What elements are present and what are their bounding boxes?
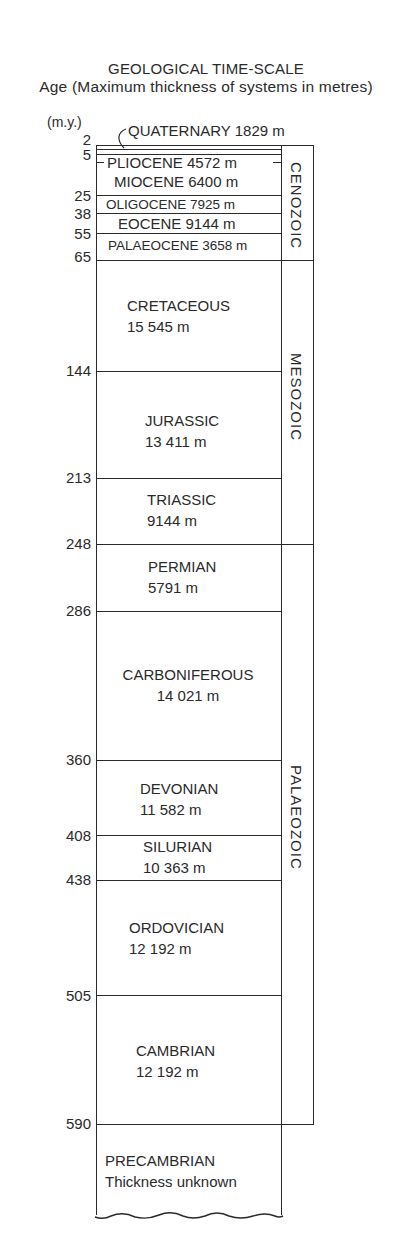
period-carboniferous: CARBONIFEROUS 14 021 m xyxy=(108,664,268,706)
era-column-right-border xyxy=(313,145,314,1125)
period-cretaceous: CRETACEOUS 15 545 m xyxy=(127,295,230,337)
boundary-144 xyxy=(96,371,281,372)
age-label: 248 xyxy=(51,536,91,552)
diagram-title: GEOLOGICAL TIME-SCALE xyxy=(0,60,412,77)
age-label: 38 xyxy=(51,206,91,222)
period-name: CAMBRIAN xyxy=(136,1040,215,1061)
age-label: 25 xyxy=(51,188,91,204)
age-label: 505 xyxy=(51,988,91,1004)
era-column-bottom xyxy=(281,1124,313,1125)
age-label: 286 xyxy=(51,603,91,619)
age-label: 65 xyxy=(51,249,91,265)
period-oligocene: OLIGOCENE 7925 m xyxy=(106,194,235,215)
age-unit-label: (m.y.) xyxy=(47,114,82,130)
age-label: 590 xyxy=(51,1116,91,1132)
era-palaeozoic: PALAEOZOIC xyxy=(288,765,305,870)
period-palaeocene: PALAEOCENE 3658 m xyxy=(108,235,247,256)
column-left-border xyxy=(96,145,97,1215)
age-label: 213 xyxy=(51,470,91,486)
period-cambrian: CAMBRIAN 12 192 m xyxy=(136,1040,215,1082)
period-precambrian: PRECAMBRIAN Thickness unknown xyxy=(105,1150,237,1192)
period-thickness: 13 411 m xyxy=(145,431,219,452)
period-devonian: DEVONIAN 11 582 m xyxy=(140,778,218,820)
age-label: 5 xyxy=(51,147,91,163)
period-name: ORDOVICIAN xyxy=(129,917,224,938)
boundary-213 xyxy=(96,478,281,479)
boundary-quaternary xyxy=(96,149,281,150)
period-name: PRECAMBRIAN xyxy=(105,1150,237,1171)
period-thickness: 15 545 m xyxy=(127,316,230,337)
period-pliocene: PLIOCENE 4572 m xyxy=(107,152,237,173)
age-label: 438 xyxy=(51,872,91,888)
period-permian: PERMIAN 5791 m xyxy=(148,556,216,598)
period-ordovician: ORDOVICIAN 12 192 m xyxy=(129,917,224,959)
age-label: 408 xyxy=(51,828,91,844)
period-quaternary-label: QUATERNARY 1829 m xyxy=(128,122,285,139)
boundary-65 xyxy=(96,260,313,261)
period-thickness: 10 363 m xyxy=(143,857,212,878)
period-name: PERMIAN xyxy=(148,556,216,577)
column-right-border xyxy=(281,145,282,1215)
boundary-2 xyxy=(96,145,313,146)
period-name: CRETACEOUS xyxy=(127,295,230,316)
period-name: SILURIAN xyxy=(143,836,212,857)
boundary-438 xyxy=(96,880,281,881)
wavy-bottom-edge xyxy=(93,1205,285,1225)
period-thickness: 12 192 m xyxy=(129,938,224,959)
pliocene-right-tick xyxy=(273,162,281,163)
period-thickness: 9144 m xyxy=(147,510,216,531)
pliocene-left-tick xyxy=(96,162,104,163)
period-jurassic: JURASSIC 13 411 m xyxy=(145,410,219,452)
era-cenozoic: CENOZOIC xyxy=(288,162,305,249)
boundary-360 xyxy=(96,760,281,761)
period-triassic: TRIASSIC 9144 m xyxy=(147,489,216,531)
age-label: 360 xyxy=(51,752,91,768)
boundary-286 xyxy=(96,611,281,612)
boundary-590 xyxy=(96,1124,281,1125)
period-name: TRIASSIC xyxy=(147,489,216,510)
period-thickness: 12 192 m xyxy=(136,1061,215,1082)
period-thickness: Thickness unknown xyxy=(105,1171,237,1192)
period-miocene: MIOCENE 6400 m xyxy=(114,171,238,192)
period-thickness: 11 582 m xyxy=(140,799,218,820)
period-name: CARBONIFEROUS xyxy=(108,664,268,685)
period-thickness: 5791 m xyxy=(148,577,216,598)
age-label: 55 xyxy=(51,226,91,242)
boundary-248 xyxy=(96,544,313,545)
period-eocene: EOCENE 9144 m xyxy=(118,213,236,234)
diagram-subtitle: Age (Maximum thickness of systems in met… xyxy=(0,78,412,96)
period-thickness: 14 021 m xyxy=(108,685,268,706)
boundary-505 xyxy=(96,995,281,996)
age-label: 144 xyxy=(51,363,91,379)
era-mesozoic: MESOZOIC xyxy=(288,353,305,441)
period-name: DEVONIAN xyxy=(140,778,218,799)
period-silurian: SILURIAN 10 363 m xyxy=(143,836,212,878)
period-name: JURASSIC xyxy=(145,410,219,431)
